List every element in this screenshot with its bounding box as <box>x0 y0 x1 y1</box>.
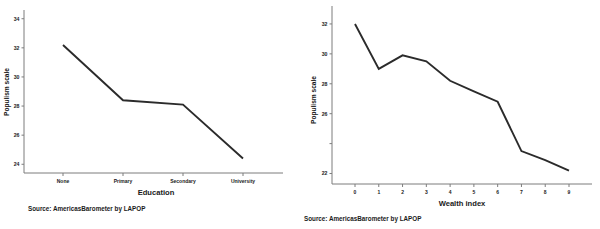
x-tick-label: 7 <box>520 189 523 195</box>
education-chart-panel: 242628303234 NonePrimarySecondaryUnivers… <box>0 0 300 229</box>
wealth-data-line <box>355 24 569 171</box>
y-tick-label: 26 <box>322 111 328 117</box>
x-tick-label: 0 <box>354 189 357 195</box>
y-tick-label: 24 <box>14 161 20 167</box>
wealth-x-axis-title: Wealth index <box>439 199 486 208</box>
x-tick-label: University <box>231 178 255 184</box>
education-y-axis-title: Populism scale <box>3 68 11 116</box>
x-tick-label: 5 <box>472 189 475 195</box>
y-tick-label: 32 <box>14 45 20 51</box>
wealth-plot-area: 2226283032 0123456789 Wealth index Popul… <box>300 0 600 229</box>
x-tick-label: Primary <box>114 178 133 184</box>
x-tick-label: 6 <box>496 189 499 195</box>
wealth-source-note: Source: AmericasBarometer by LAPOP <box>304 215 421 223</box>
y-tick-label: 30 <box>14 74 20 80</box>
y-tick-label: 28 <box>14 103 20 109</box>
education-source-note: Source: AmericasBarometer by LAPOP <box>28 205 145 213</box>
education-plot-area: 242628303234 NonePrimarySecondaryUnivers… <box>0 0 300 229</box>
y-tick-label: 32 <box>322 21 328 27</box>
x-tick-label: 4 <box>449 189 452 195</box>
y-tick-label: 30 <box>322 51 328 57</box>
wealth-x-tick-labels: 0123456789 <box>354 189 571 195</box>
x-tick-label: None <box>57 178 70 184</box>
education-x-tick-labels: NonePrimarySecondaryUniversity <box>57 178 256 184</box>
education-x-axis-title: Education <box>138 188 175 197</box>
education-data-line <box>63 45 243 159</box>
x-tick-label: 2 <box>401 189 404 195</box>
x-tick-label: 9 <box>568 189 571 195</box>
y-tick-label: 22 <box>322 170 328 176</box>
y-tick-label: 26 <box>14 132 20 138</box>
y-tick-label: 28 <box>322 81 328 87</box>
x-tick-label: 8 <box>544 189 547 195</box>
x-tick-label: 1 <box>377 189 380 195</box>
y-tick-label: 34 <box>14 16 20 22</box>
wealth-chart-panel: 2226283032 0123456789 Wealth index Popul… <box>300 0 600 229</box>
wealth-line-chart-svg: 2226283032 0123456789 Wealth index Popul… <box>300 0 600 229</box>
x-tick-label: Secondary <box>170 178 196 184</box>
wealth-y-tick-labels: 2226283032 <box>322 21 328 177</box>
education-line-chart-svg: 242628303234 NonePrimarySecondaryUnivers… <box>0 0 300 229</box>
x-tick-label: 3 <box>425 189 428 195</box>
wealth-y-axis-title: Populism scale <box>310 76 318 124</box>
education-y-tick-labels: 242628303234 <box>14 16 20 168</box>
